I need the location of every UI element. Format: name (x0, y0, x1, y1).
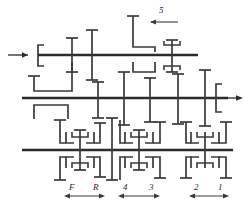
output-arrow (222, 95, 243, 101)
label-1: 1 (218, 183, 223, 192)
label-2: 2 (194, 183, 199, 192)
label-5-leader (150, 19, 178, 24)
shift-range-43 (118, 194, 160, 199)
shift-range-fr (64, 194, 105, 199)
input-arrow (8, 52, 28, 58)
shift-range-21 (189, 194, 229, 199)
label-r: R (93, 183, 99, 192)
output-left-bracket (28, 76, 72, 91)
label-f: F (69, 183, 75, 192)
label-3: 3 (149, 183, 154, 192)
output-shaft-group (22, 62, 228, 126)
output-left-lower-bracket (34, 105, 68, 119)
countershaft-group (22, 118, 233, 180)
fifth-gear-hub (127, 16, 155, 72)
output-gear-c (92, 82, 104, 118)
label-4: 4 (123, 183, 128, 192)
output-gear-e (144, 78, 156, 122)
gearbox-schematic-diagram: 5 F R 4 3 2 1 (0, 0, 251, 213)
input-shaft-group (38, 16, 198, 80)
label-5: 5 (159, 6, 164, 15)
